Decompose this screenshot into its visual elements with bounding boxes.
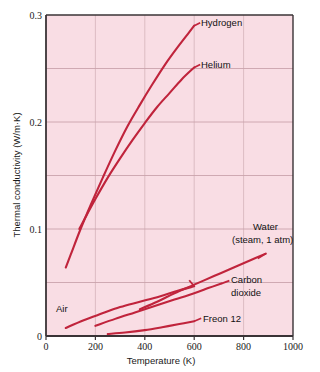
thermal-conductivity-chart: Hydrogen Helium Water (steam, 1 atm) Car…	[0, 0, 320, 372]
y-tick-label-0: 0	[37, 331, 42, 342]
curve-label-hydrogen: Hydrogen	[201, 17, 242, 28]
curve-label-air: Air	[56, 303, 68, 314]
y-tick-label-0.2: 0.2	[30, 117, 43, 128]
x-tick-label-200: 200	[88, 341, 103, 352]
curve-label-co2-line1: Carbon	[231, 274, 262, 285]
curve-label-water-line1: Water	[253, 221, 278, 232]
x-tick-label-1000: 1000	[283, 341, 303, 352]
x-axis-title: Temperature (K)	[127, 355, 196, 366]
y-axis-title: Thermal conductivity (W/m·K)	[11, 112, 22, 237]
x-tick-label-400: 400	[137, 341, 152, 352]
x-tick-label-600: 600	[187, 341, 202, 352]
x-tick-label-0: 0	[44, 341, 49, 352]
y-tick-label-0.1: 0.1	[30, 224, 43, 235]
curve-label-freon-12: Freon 12	[203, 313, 241, 324]
y-tick-label-0.3: 0.3	[30, 10, 43, 21]
curve-label-water-line2: (steam, 1 atm)	[232, 234, 293, 245]
curve-label-co2-line2: dioxide	[231, 287, 261, 298]
x-tick-label-800: 800	[236, 341, 251, 352]
curve-label-helium: Helium	[201, 59, 231, 70]
